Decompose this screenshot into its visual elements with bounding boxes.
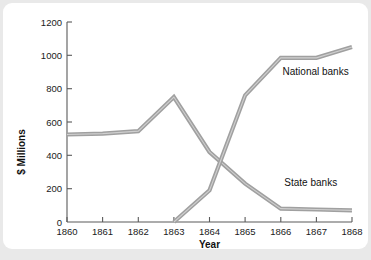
series-line-state-banks [67,97,352,210]
y-tick-label-400: 400 [46,150,62,161]
y-tick-label-600: 600 [46,117,62,128]
x-tick-label-1863: 1863 [163,226,184,237]
y-tick-label-800: 800 [46,83,62,94]
y-tick-label-1000: 1000 [41,50,62,61]
line-chart-svg: $ Millions 1200 1000 800 600 400 200 0 [0,0,371,260]
x-axis-title: Year [199,239,220,250]
x-tick-label-1866: 1866 [270,226,291,237]
y-axis-title: $ Millions [16,129,27,175]
y-tick-label-200: 200 [46,183,62,194]
x-axis-ticks: 1860 1861 1862 1863 1864 1865 1866 1867 … [56,217,362,237]
x-tick-label-1867: 1867 [306,226,327,237]
x-tick-label-1864: 1864 [199,226,220,237]
x-tick-label-1861: 1861 [92,226,113,237]
y-tick-label-1200: 1200 [41,17,62,28]
x-tick-label-1865: 1865 [235,226,256,237]
annotation-state-banks: State banks [284,177,337,188]
x-tick-label-1862: 1862 [128,226,149,237]
x-tick-label-1868: 1868 [341,226,362,237]
annotation-national-banks: National banks [283,66,349,77]
screenshot-root: $ Millions 1200 1000 800 600 400 200 0 [0,0,371,260]
chart-figure: $ Millions 1200 1000 800 600 400 200 0 [0,0,371,260]
x-tick-label-1860: 1860 [56,226,77,237]
